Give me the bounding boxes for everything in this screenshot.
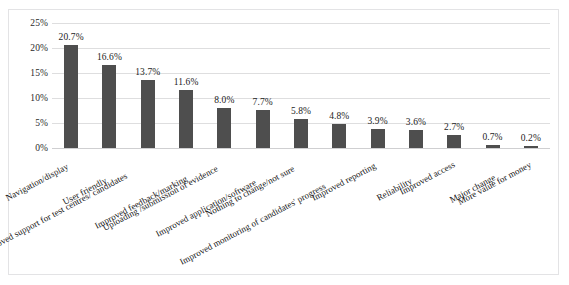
y-axis-tick-label: 10%	[8, 93, 48, 103]
bar-value-label: 11.6%	[168, 77, 204, 87]
x-axis-category-label: More value for money	[456, 160, 533, 207]
bar-value-label: 2.7%	[436, 122, 472, 132]
y-axis-tick-label: 20%	[8, 43, 48, 53]
bar-value-label: 16.6%	[91, 52, 127, 62]
bar-value-label: 13.7%	[130, 67, 166, 77]
y-axis-tick-label: 15%	[8, 68, 48, 78]
bar-value-label: 3.6%	[398, 117, 434, 127]
bar-value-label: 20.7%	[53, 32, 89, 42]
bar-value-label: 5.8%	[283, 106, 319, 116]
x-axis-category-label: Navigation/display	[4, 161, 70, 202]
bar-value-label: 4.8%	[321, 111, 357, 121]
bar-chart-figure: 0%5%10%15%20%25% 20.7%16.6%13.7%11.6%8.0…	[0, 0, 569, 285]
x-axis-category-labels: Navigation/displayUser friendlyImproved …	[0, 148, 569, 278]
bar-value-label: 0.2%	[513, 133, 549, 143]
bar-value-label: 0.7%	[475, 132, 511, 142]
y-axis-tick-label: 5%	[8, 118, 48, 128]
data-labels: 20.7%16.6%13.7%11.6%8.0%7.7%5.8%4.8%3.9%…	[52, 23, 550, 148]
bar-value-label: 3.9%	[360, 116, 396, 126]
bar-value-label: 7.7%	[245, 97, 281, 107]
bar-value-label: 8.0%	[206, 95, 242, 105]
y-axis-tick-labels: 0%5%10%15%20%25%	[4, 23, 48, 148]
y-axis-tick-label: 25%	[8, 18, 48, 28]
